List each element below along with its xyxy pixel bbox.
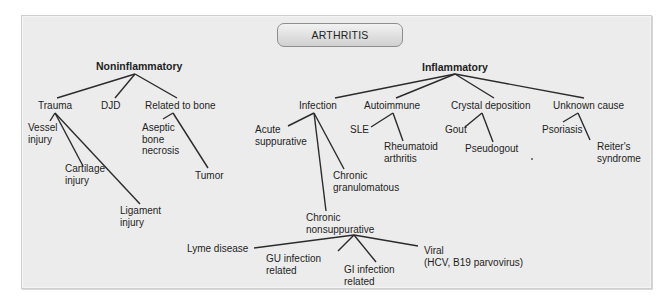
node-related-to-bone: Related to bone	[145, 100, 216, 112]
root-node-arthritis: ARTHRITIS	[277, 23, 403, 47]
node-noninflammatory: Noninflammatory	[96, 61, 182, 73]
node-gu-infection-related: GU infection related	[266, 253, 321, 276]
node-nonsupp-line1: Chronic	[306, 212, 374, 224]
stray-dot-mark	[531, 158, 533, 160]
node-sle: SLE	[350, 124, 369, 136]
node-crystal-deposition: Crystal deposition	[451, 100, 530, 112]
node-ligament-injury-line2: injury	[120, 217, 161, 229]
node-pseudogout: Pseudogout	[465, 143, 518, 155]
node-inflammatory: Inflammatory	[422, 62, 488, 74]
node-gi-line2: related	[344, 276, 395, 288]
node-gi-infection-related: GI infection related	[344, 264, 395, 287]
node-rheumatoid-arthritis: Rheumatoid arthritis	[384, 141, 438, 164]
node-viral-line1: Viral	[424, 245, 523, 257]
node-ligament-injury-line1: Ligament	[120, 205, 161, 217]
node-granulomatous-line1: Chronic	[333, 170, 399, 182]
node-tumor: Tumor	[195, 170, 224, 182]
node-acute-line2: suppurative	[255, 136, 307, 148]
node-viral: Viral (HCV, B19 parvovirus)	[424, 245, 523, 268]
node-gout: Gout	[445, 124, 467, 136]
node-vessel-injury-line2: injury	[28, 134, 57, 146]
node-djd: DJD	[101, 100, 120, 112]
node-psoriasis: Psoriasis	[542, 124, 583, 136]
node-cartilage-injury: Cartilage injury	[65, 163, 105, 186]
node-unknown-cause: Unknown cause	[553, 100, 624, 112]
node-gu-line2: related	[266, 265, 321, 277]
node-gi-line1: GI infection	[344, 264, 395, 276]
node-trauma: Trauma	[38, 100, 72, 112]
node-ligament-injury: Ligament injury	[120, 205, 161, 228]
node-ra-line1: Rheumatoid	[384, 141, 438, 153]
node-vessel-injury: Vessel injury	[28, 122, 57, 145]
node-reiters-line2: syndrome	[597, 153, 641, 165]
node-ra-line2: arthritis	[384, 153, 438, 165]
node-aseptic-bone-necrosis: Aseptic bone necrosis	[142, 122, 179, 157]
node-acute-line1: Acute	[255, 124, 307, 136]
node-nonsupp-line2: nonsuppurative	[306, 224, 374, 236]
node-viral-line2: (HCV, B19 parvovirus)	[424, 257, 523, 269]
node-acute-suppurative: Acute suppurative	[255, 124, 307, 147]
node-cartilage-injury-line2: injury	[65, 175, 105, 187]
node-aseptic-line2: bone	[142, 134, 179, 146]
node-chronic-granulomatous: Chronic granulomatous	[333, 170, 399, 193]
node-autoimmune: Autoimmune	[364, 100, 420, 112]
node-lyme-disease: Lyme disease	[187, 243, 248, 255]
node-chronic-nonsuppurative: Chronic nonsuppurative	[306, 212, 374, 235]
node-aseptic-line3: necrosis	[142, 145, 179, 157]
node-cartilage-injury-line1: Cartilage	[65, 163, 105, 175]
node-gu-line1: GU infection	[266, 253, 321, 265]
node-granulomatous-line2: granulomatous	[333, 182, 399, 194]
node-reiters-line1: Reiter's	[597, 141, 641, 153]
node-reiters-syndrome: Reiter's syndrome	[597, 141, 641, 164]
node-vessel-injury-line1: Vessel	[28, 122, 57, 134]
node-infection: Infection	[299, 100, 337, 112]
node-aseptic-line1: Aseptic	[142, 122, 179, 134]
